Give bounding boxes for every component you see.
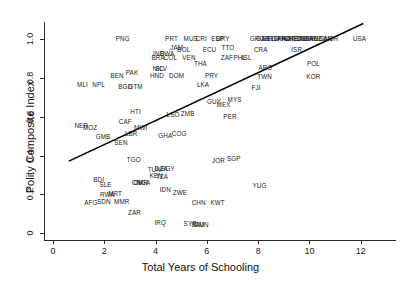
- data-point-label: CRI: [196, 36, 207, 42]
- data-point-label: PAK: [126, 70, 138, 76]
- x-tick-label: 6: [204, 246, 209, 256]
- data-point-label: PRY: [205, 73, 218, 79]
- data-point-label: AFG: [84, 200, 97, 206]
- data-point-label: MOZ: [83, 124, 97, 130]
- data-point-label: GMB: [96, 134, 111, 140]
- y-tick-mark: [40, 39, 44, 40]
- y-tick-mark: [40, 156, 44, 157]
- data-point-label: ZAF: [221, 55, 233, 61]
- data-point-label: TTO: [222, 45, 235, 51]
- x-tick-label: 12: [356, 246, 366, 256]
- data-point-label: IRQ: [154, 219, 166, 225]
- data-point-label: TGO: [127, 156, 141, 162]
- data-point-label: KWT: [210, 200, 224, 206]
- data-point-label: ZWE: [173, 190, 187, 196]
- data-point-label: ISR: [291, 47, 302, 53]
- x-tick-mark: [156, 240, 157, 244]
- x-tick-label: 4: [153, 246, 158, 256]
- data-point-label: LKA: [197, 82, 209, 88]
- data-point-label: CRA: [254, 47, 268, 53]
- data-point-label: HTI: [130, 109, 140, 115]
- data-point-label: NOR: [324, 36, 338, 42]
- data-point-label: MYS: [228, 97, 242, 103]
- data-point-label: EGY: [161, 166, 175, 172]
- x-tick-mark: [309, 240, 310, 244]
- x-tick-mark: [53, 240, 54, 244]
- data-point-label: PNG: [116, 36, 130, 42]
- x-tick-mark: [258, 240, 259, 244]
- data-point-label: ECU: [203, 47, 217, 53]
- data-point-label: CHN: [192, 200, 206, 206]
- x-tick-mark: [361, 240, 362, 244]
- data-point-label: JOR: [212, 157, 225, 163]
- y-tick-mark: [40, 117, 44, 118]
- data-point-label: COG: [172, 131, 187, 137]
- y-tick-mark: [40, 233, 44, 234]
- x-tick-mark: [104, 240, 105, 244]
- data-point-label: PER: [223, 114, 236, 120]
- data-point-label: POL: [307, 61, 320, 67]
- data-point-label: SLE: [99, 182, 111, 188]
- data-point-label: COL: [164, 55, 177, 61]
- data-point-label: LBR: [125, 131, 138, 137]
- x-tick-mark: [207, 240, 208, 244]
- data-point-label: KOR: [306, 74, 320, 80]
- data-point-label: SGP: [227, 155, 241, 161]
- data-point-label: CAF: [119, 119, 132, 125]
- data-point-label: PRT: [165, 36, 178, 42]
- data-point-label: ISL: [242, 55, 252, 61]
- x-tick-label: 0: [50, 246, 55, 256]
- data-point-label: URY: [216, 36, 229, 42]
- scatter-plot-figure: 024681012 00.20.40.60.81.0 Total Years o…: [0, 0, 401, 291]
- data-point-label: BOL: [177, 47, 190, 53]
- data-point-label: MMR: [114, 199, 129, 205]
- data-point-label: DOM: [169, 73, 184, 79]
- data-point-label: BEN: [110, 73, 123, 79]
- data-point-label: YUG: [252, 183, 266, 189]
- y-tick-mark: [40, 78, 44, 79]
- data-point-label: ARG: [258, 64, 272, 70]
- x-tick-label: 10: [304, 246, 314, 256]
- data-point-label: ZAR: [128, 210, 141, 216]
- x-axis-line: [44, 240, 396, 241]
- data-point-label: TWN: [257, 74, 272, 80]
- data-point-label: SEN: [114, 140, 127, 146]
- data-point-label: GTM: [128, 84, 142, 90]
- data-point-label: MRT: [108, 191, 122, 197]
- data-point-label: BRA: [152, 55, 165, 61]
- data-point-label: THA: [194, 61, 207, 67]
- y-axis-title: Polity Composite Index: [24, 47, 36, 227]
- plot-area: [44, 22, 389, 240]
- data-point-label: GHA: [158, 133, 172, 139]
- data-point-label: ZMB: [181, 111, 195, 117]
- data-point-label: LSO: [167, 112, 180, 118]
- data-point-label: HND: [150, 73, 164, 79]
- data-point-label: CMR: [133, 180, 148, 186]
- data-point-label: FJI: [252, 85, 261, 91]
- y-tick-mark: [40, 194, 44, 195]
- data-point-label: NPL: [92, 82, 105, 88]
- data-point-label: USA: [353, 36, 366, 42]
- x-axis-title: Total Years of Schooling: [0, 261, 401, 273]
- data-point-label: SDN: [97, 199, 111, 205]
- y-axis-line: [44, 22, 45, 240]
- x-tick-label: 2: [102, 246, 107, 256]
- data-point-label: TZA: [156, 174, 168, 180]
- data-point-label: OMN: [194, 222, 209, 228]
- data-point-label: MLI: [77, 82, 88, 88]
- x-tick-label: 8: [256, 246, 261, 256]
- data-point-label: IDN: [160, 186, 171, 192]
